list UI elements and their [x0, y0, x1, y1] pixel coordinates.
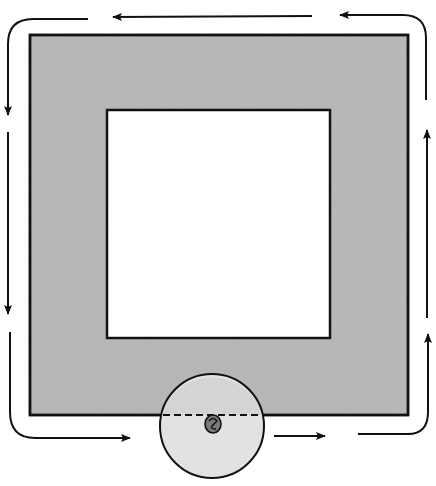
flux-arrow-top-middle — [113, 16, 312, 17]
magnetic-circuit-diagram — [0, 0, 436, 486]
gap-detail — [160, 374, 264, 478]
core-window — [107, 110, 330, 338]
coil-symbol-icon — [205, 415, 221, 433]
